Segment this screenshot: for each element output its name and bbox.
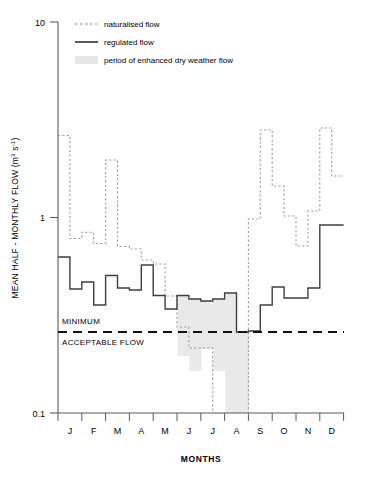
month-label-oct: O — [281, 426, 288, 436]
month-label-feb: F — [91, 426, 97, 436]
y-tick-label-10: 10 — [35, 18, 45, 28]
svg-text:MEAN HALF - MONTHLY FLOW (m3 s: MEAN HALF - MONTHLY FLOW (m3 s-1) — [10, 138, 20, 299]
legend-label-enhanced-dry-weather-flow: period of enhanced dry weather flow — [104, 56, 233, 65]
y-axis-title-mid: s — [10, 146, 20, 153]
y-tick-label-1: 1 — [40, 213, 45, 223]
minimum-label-line1: MINIMUM — [62, 317, 100, 326]
month-label-jun: J — [187, 426, 192, 436]
month-label-may: M — [161, 426, 169, 436]
month-label-mar: M — [114, 426, 122, 436]
y-axis-title: MEAN HALF - MONTHLY FLOW (m3 s-1) — [10, 138, 20, 299]
chart-svg: 10 1 0.1 MEAN HALF - MONTHLY FLOW (m3 s-… — [0, 0, 365, 477]
y-axis-title-main: MEAN HALF - MONTHLY FLOW (m — [10, 157, 20, 299]
month-label-apr: A — [138, 426, 144, 436]
month-label-sep: S — [257, 426, 263, 436]
month-label-nov: N — [305, 426, 312, 436]
month-label-dec: D — [328, 426, 335, 436]
minimum-label-line2: ACCEPTABLE FLOW — [62, 338, 144, 347]
month-label-jul: J — [210, 426, 215, 436]
legend-swatch-enhanced-dry-weather-flow — [75, 56, 98, 64]
month-label-aug: A — [233, 426, 239, 436]
chart-legend: naturalised flow regulated flow period o… — [75, 20, 233, 65]
flow-chart-figure: 10 1 0.1 MEAN HALF - MONTHLY FLOW (m3 s-… — [0, 0, 365, 477]
y-tick-label-0-1: 0.1 — [32, 409, 45, 419]
legend-label-naturalised-flow: naturalised flow — [104, 20, 160, 29]
x-axis-title: MONTHS — [181, 454, 221, 464]
month-label-jan: J — [68, 426, 73, 436]
y-axis-title-close-paren: ) — [10, 138, 20, 141]
legend-label-regulated-flow: regulated flow — [104, 38, 154, 47]
